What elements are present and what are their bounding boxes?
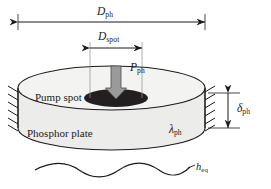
heat-transfer-coefficient-subscript: eq (201, 166, 208, 173)
heat-transfer-coefficient-label: heq (196, 162, 208, 173)
pump-spot-text-label: Pump spot (35, 92, 82, 103)
plate-diameter-subscript: ph (105, 10, 113, 19)
left-boundary-hatching (8, 86, 18, 131)
thermal-conductivity-subscript: ph (174, 128, 182, 137)
convection-wavy-line (35, 163, 190, 177)
pump-spot-diameter-label: Dspot (98, 31, 119, 43)
pump-power-symbol: P (130, 61, 137, 73)
plate-thickness-subscript: ph (242, 107, 250, 116)
pump-power-label: Pph (130, 62, 145, 74)
plate-diameter-label: Dph (97, 6, 113, 18)
pump-power-subscript: ph (137, 66, 145, 75)
plate-thickness-label: δph (237, 103, 250, 115)
thermal-conductivity-label: λph (169, 124, 182, 136)
pump-spot-diameter-subscript: spot (106, 35, 119, 44)
phosphor-plate-text-label: Phosphor plate (27, 128, 93, 139)
plate-thickness-dimension (208, 93, 240, 128)
heq-leader-line (188, 165, 195, 168)
phosphor-plate-diagram: Dph Dspot Pph Pump spot Phosphor plate λ… (0, 0, 271, 189)
